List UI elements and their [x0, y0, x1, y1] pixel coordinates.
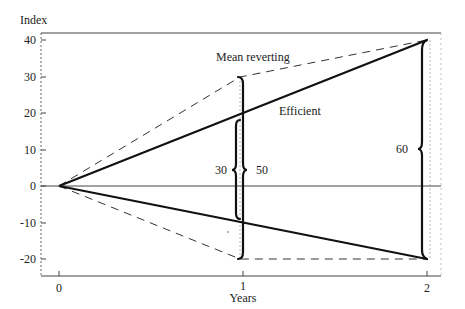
y-axis-labels: 40 30 20 10 0 -10 -20 [20, 33, 36, 266]
y-tick-label: 10 [24, 143, 36, 157]
y-tick-label: 40 [24, 33, 36, 47]
brace-30-label: 30 [215, 163, 227, 177]
efficient-label: Efficient [279, 104, 321, 118]
x-tick-label: 2 [424, 281, 430, 295]
brace-50 [238, 77, 247, 259]
brace-60-label: 60 [396, 142, 408, 156]
y-tick-label: 20 [24, 106, 36, 120]
plot-frame [41, 33, 441, 276]
x-axis-title: Years [230, 291, 257, 305]
y-tick-label: -10 [20, 216, 36, 230]
y-tick-label: -20 [20, 252, 36, 266]
mean-reverting-label: Mean reverting [216, 50, 290, 64]
y-tick-label: 0 [30, 179, 36, 193]
brace-30 [232, 120, 240, 219]
x-tick-label: 0 [56, 281, 62, 295]
chart: 40 30 20 10 0 -10 -20 0 1 2 Index Years … [0, 0, 465, 309]
y-axis-title: Index [20, 13, 47, 27]
stray-dot [227, 231, 229, 233]
x-axis-ticks [59, 271, 427, 276]
brace-60 [418, 40, 427, 259]
y-tick-label: 30 [24, 70, 36, 84]
brace-50-label: 50 [256, 163, 268, 177]
y-axis-ticks [41, 40, 46, 259]
